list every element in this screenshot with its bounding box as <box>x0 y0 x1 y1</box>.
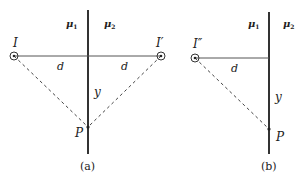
point-p-label-b: P <box>275 130 285 144</box>
medium-1-label-b: μ1 <box>248 18 260 30</box>
medium-2-label-a: μ2 <box>104 18 116 30</box>
medium-2-label-b: μ2 <box>283 18 295 30</box>
caption-b: (b) <box>261 160 277 173</box>
image-method-diagram: μ1 μ2 I I′ d d y P (a) μ1 μ2 I″ d y P (b… <box>0 0 298 184</box>
vertical-distance-label-b: y <box>274 90 282 104</box>
distance-label-b: d <box>231 62 238 75</box>
vertical-distance-label-a: y <box>93 85 101 99</box>
dashed-line-source-a <box>14 56 88 127</box>
panel-a: μ1 μ2 I I′ d d y P (a) <box>10 10 165 173</box>
distance-label-right: d <box>121 60 128 73</box>
distance-label-left: d <box>57 60 64 73</box>
point-p-marker-b <box>267 127 270 130</box>
panel-b: μ1 μ2 I″ d y P (b) <box>191 12 295 173</box>
caption-a: (a) <box>80 160 95 173</box>
point-p-marker-a <box>86 125 89 128</box>
image-label-i-prime: I′ <box>155 36 164 50</box>
point-p-label-a: P <box>74 126 84 140</box>
medium-1-label-a: μ1 <box>66 18 78 30</box>
image-label-i-double-prime: I″ <box>192 37 203 51</box>
source-label-i: I <box>12 36 18 50</box>
